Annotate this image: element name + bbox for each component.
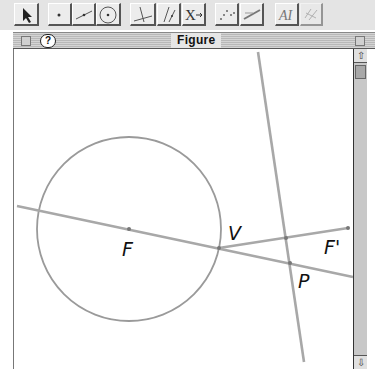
scroll-down-arrow[interactable]: ⇩ — [354, 355, 367, 369]
vertical-scrollbar[interactable]: ⇧ ⇩ — [353, 49, 367, 369]
label-F[interactable]: F — [122, 238, 133, 260]
scroll-up-arrow[interactable]: ⇧ — [354, 49, 367, 63]
perpendicular-line[interactable] — [258, 52, 304, 362]
point-intersection[interactable] — [284, 236, 288, 240]
point-Fprime[interactable] — [346, 226, 350, 230]
point-V[interactable] — [217, 246, 221, 250]
label-V[interactable]: V — [228, 222, 241, 244]
line-through-F[interactable] — [17, 206, 353, 277]
scroll-thumb[interactable] — [355, 65, 366, 79]
label-Fprime[interactable]: F' — [324, 236, 340, 258]
point-P[interactable] — [288, 261, 292, 265]
label-P[interactable]: P — [298, 270, 309, 292]
geometry-figure — [0, 0, 375, 369]
point-F[interactable] — [127, 227, 131, 231]
